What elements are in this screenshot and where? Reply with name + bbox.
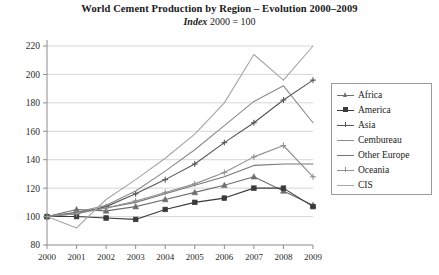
xtick-label-2004: 2004 <box>156 252 175 262</box>
xtick-label-2005: 2005 <box>186 252 205 262</box>
datapoint-africa-2007 <box>251 174 257 179</box>
legend-plus-marker-icon <box>345 122 346 127</box>
legend-swatch-cis <box>337 180 354 191</box>
legend-swatch-other-europe <box>337 150 354 161</box>
legend-swatch-cembureau <box>337 135 354 146</box>
ytick-label-160: 160 <box>26 127 41 137</box>
legend-item-africa[interactable]: Africa <box>337 88 431 103</box>
xtick-label-2008: 2008 <box>274 252 293 262</box>
datapoint-america-2003 <box>133 217 138 222</box>
ytick-label-220: 220 <box>26 41 41 51</box>
legend-item-america[interactable]: America <box>337 103 431 118</box>
legend-swatch-oceania <box>337 165 354 176</box>
legend-label: CIS <box>358 180 373 191</box>
datapoint-america-2006 <box>222 196 227 201</box>
datapoint-america-2002 <box>104 216 109 221</box>
legend-line-icon <box>337 155 354 156</box>
legend-label: Africa <box>358 90 382 101</box>
legend-item-other-europe[interactable]: Other Europe <box>337 148 431 163</box>
xtick-label-2000: 2000 <box>38 252 57 262</box>
xtick-label-2007: 2007 <box>245 252 264 262</box>
legend-item-oceania[interactable]: Oceania <box>337 163 431 178</box>
ytick-label-120: 120 <box>26 184 41 194</box>
series-cis <box>47 46 313 228</box>
grid-lines <box>43 46 313 245</box>
legend-item-cis[interactable]: CIS <box>337 178 431 193</box>
xtick-label-2006: 2006 <box>215 252 234 262</box>
datapoint-america-2005 <box>192 200 197 205</box>
datapoint-america-2009 <box>311 204 316 209</box>
legend-label: Other Europe <box>358 150 409 161</box>
series-line-cembureau <box>47 86 313 217</box>
datapoint-america-2007 <box>252 186 257 191</box>
ytick-label-200: 200 <box>26 70 41 80</box>
legend-item-asia[interactable]: Asia <box>337 118 431 133</box>
ytick-label-140: 140 <box>26 155 41 165</box>
legend-plus-marker-icon <box>345 167 346 172</box>
x-axis-ticks <box>47 245 313 249</box>
series-line-america <box>47 188 313 219</box>
datapoint-america-2004 <box>163 207 168 212</box>
legend-square-marker-icon <box>343 107 348 112</box>
legend-triangle-marker-icon <box>343 92 347 97</box>
chart-legend: AfricaAmericaAsiaCembureauOther EuropeOc… <box>331 83 432 195</box>
series-cembureau <box>47 86 313 217</box>
datapoint-america-2008 <box>281 186 286 191</box>
xtick-label-2009: 2009 <box>304 252 323 262</box>
legend-label: Cembureau <box>358 135 402 146</box>
ytick-label-80: 80 <box>31 240 41 250</box>
legend-item-cembureau[interactable]: Cembureau <box>337 133 431 148</box>
ytick-label-100: 100 <box>26 212 41 222</box>
xtick-label-2001: 2001 <box>68 252 86 262</box>
legend-line-icon <box>337 140 354 141</box>
legend-swatch-asia <box>337 120 354 131</box>
xtick-label-2002: 2002 <box>97 252 115 262</box>
xtick-label-2003: 2003 <box>127 252 146 262</box>
series-line-cis <box>47 46 313 228</box>
legend-label: America <box>358 105 391 116</box>
legend-label: Asia <box>358 120 375 131</box>
series-oceania <box>44 143 316 220</box>
legend-swatch-america <box>337 105 354 116</box>
legend-swatch-africa <box>337 90 354 101</box>
ytick-label-180: 180 <box>26 98 41 108</box>
legend-label: Oceania <box>358 165 389 176</box>
legend-line-icon <box>337 185 354 186</box>
chart-page: World Cement Production by Region – Evol… <box>0 0 439 275</box>
